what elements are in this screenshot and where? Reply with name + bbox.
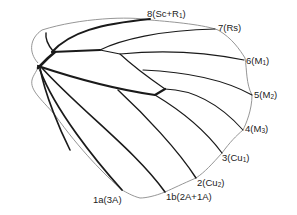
vein-radial-stem	[52, 50, 100, 52]
vein-base	[38, 52, 55, 68]
vein-1a-3a	[40, 70, 122, 190]
vein-7-rs	[100, 29, 215, 50]
label-vein-4: 4(M3)	[245, 124, 268, 135]
label-vein-1b: 1b(2A+1A)	[166, 192, 212, 202]
label-paren: )	[246, 152, 249, 163]
label-vein-7: 7(Rs)	[218, 23, 241, 33]
label-num: 1b	[166, 191, 177, 202]
label-vein-1a: 1a(3A)	[93, 195, 122, 205]
label-paren: )	[118, 194, 121, 205]
label-main: Cu	[205, 177, 217, 188]
label-paren: )	[209, 191, 212, 202]
label-paren: )	[183, 8, 186, 19]
vein-humeral	[46, 33, 53, 51]
label-main: Rs	[226, 22, 238, 33]
vein-discocellular	[120, 54, 165, 89]
vein-2-cu2	[118, 90, 196, 178]
label-vein-2: 2(Cu2)	[197, 178, 224, 189]
label-main: Sc+R	[155, 8, 179, 19]
label-paren: )	[266, 55, 269, 66]
label-paren: )	[265, 123, 268, 134]
label-main: Cu	[230, 152, 242, 163]
label-vein-5: 5(M2)	[254, 90, 277, 101]
wing-diagram	[0, 0, 297, 215]
label-paren: )	[221, 177, 224, 188]
label-vein-8: 8(Sc+R1)	[147, 9, 186, 20]
label-vein-6: 6(M1)	[246, 56, 269, 67]
label-paren: )	[238, 22, 241, 33]
label-paren: )	[274, 89, 277, 100]
label-main: 3A	[107, 194, 119, 205]
label-vein-3: 3(Cu1)	[222, 153, 249, 164]
label-num: 1a	[93, 194, 104, 205]
label-main: 2A+1A	[180, 191, 209, 202]
